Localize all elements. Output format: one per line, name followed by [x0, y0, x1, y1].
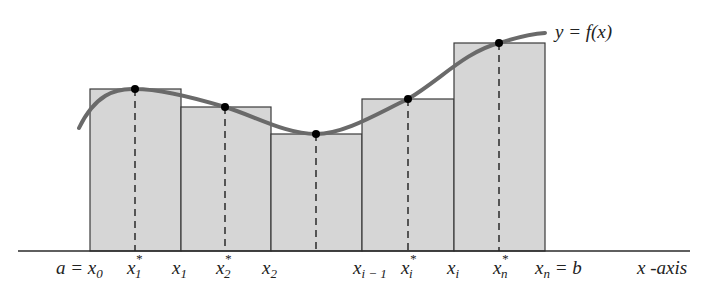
- sample-point-4: [404, 95, 412, 103]
- tick-label-x2: x2: [261, 257, 277, 281]
- rectangle-5: [454, 43, 545, 251]
- tick-label-a-x0: a = x0: [56, 257, 103, 281]
- tick-label-xn-b: xn = b: [534, 257, 582, 281]
- sample-point-1: [131, 85, 139, 93]
- sample-point-5: [495, 39, 503, 47]
- tick-label-xi-star: x*i: [400, 251, 416, 281]
- riemann-sum-diagram: y = f(x) a = x0 x*1 x1 x*2 x2 xi − 1 x*i: [0, 0, 705, 292]
- sample-point-3: [312, 130, 320, 138]
- tick-labels: a = x0 x*1 x1 x*2 x2 xi − 1 x*i xi: [56, 251, 582, 281]
- tick-label-x1-star: x*1: [126, 251, 142, 281]
- tick-label-xn-star: x*n: [492, 251, 508, 281]
- tick-label-x1: x1: [171, 257, 187, 281]
- axis-label: x -axis: [636, 257, 687, 278]
- sample-point-2: [221, 103, 229, 111]
- tick-label-x2-star: x*2: [215, 251, 231, 281]
- tick-label-xi: xi: [446, 257, 459, 281]
- rectangles: [90, 43, 545, 251]
- rectangle-2: [181, 107, 271, 251]
- curve-label: y = f(x): [553, 21, 612, 43]
- tick-label-xi-minus-1: xi − 1: [352, 257, 387, 281]
